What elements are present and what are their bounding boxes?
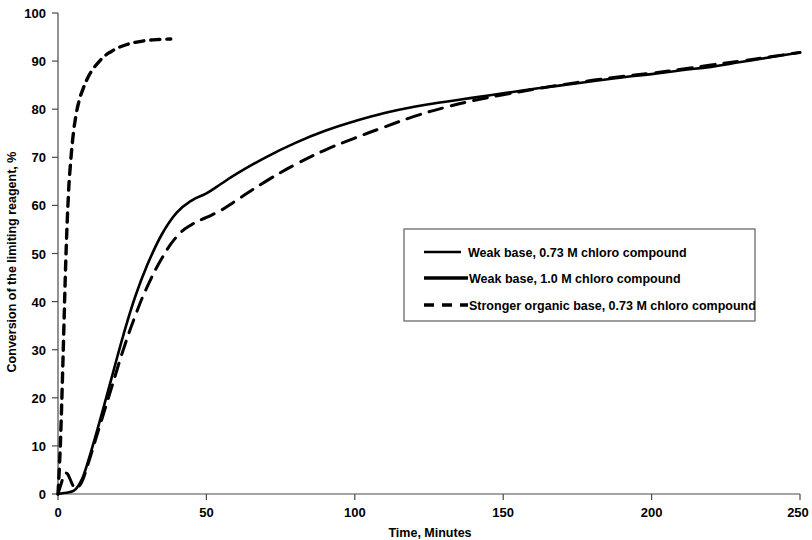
x-axis-title: Time, Minutes bbox=[388, 526, 471, 540]
x-tick-label: 50 bbox=[199, 505, 213, 520]
y-axis-title: Conversion of the limiting reagent, % bbox=[5, 152, 19, 373]
y-tick-label: 100 bbox=[24, 6, 46, 21]
y-axis-tick-labels: 0 10 20 30 40 50 60 70 80 90 100 bbox=[24, 6, 46, 502]
x-tick-label: 150 bbox=[492, 505, 514, 520]
conversion-vs-time-chart: 0 10 20 30 40 50 60 70 80 90 100 0 50 10… bbox=[0, 0, 812, 540]
y-tick-label: 40 bbox=[32, 295, 46, 310]
x-axis-ticks bbox=[58, 494, 800, 500]
y-tick-label: 10 bbox=[32, 439, 46, 454]
y-tick-label: 70 bbox=[32, 150, 46, 165]
x-tick-label: 250 bbox=[787, 505, 809, 520]
x-tick-label: 100 bbox=[344, 505, 366, 520]
x-axis-tick-labels: 0 50 100 150 200 250 bbox=[54, 505, 808, 520]
x-tick-label: 200 bbox=[641, 505, 663, 520]
y-tick-label: 80 bbox=[32, 102, 46, 117]
y-tick-label: 60 bbox=[32, 198, 46, 213]
y-tick-label: 0 bbox=[39, 487, 46, 502]
chart-page: 0 10 20 30 40 50 60 70 80 90 100 0 50 10… bbox=[0, 0, 812, 540]
legend-item-2[interactable]: Stronger organic base, 0.73 M chloro com… bbox=[424, 299, 756, 313]
legend-item-label: Stronger organic base, 0.73 M chloro com… bbox=[469, 299, 756, 313]
y-tick-label: 50 bbox=[32, 247, 46, 262]
x-tick-label: 0 bbox=[54, 505, 61, 520]
y-tick-label: 90 bbox=[32, 54, 46, 69]
series-line-stronger-organic-base bbox=[58, 39, 171, 494]
y-tick-label: 20 bbox=[32, 391, 46, 406]
y-tick-label: 30 bbox=[32, 343, 46, 358]
legend-item-label: Weak base, 1.0 M chloro compound bbox=[469, 272, 681, 286]
legend: Weak base, 0.73 M chloro compound Weak b… bbox=[404, 229, 756, 321]
legend-item-label: Weak base, 0.73 M chloro compound bbox=[468, 246, 687, 260]
y-axis-ticks bbox=[52, 13, 58, 494]
